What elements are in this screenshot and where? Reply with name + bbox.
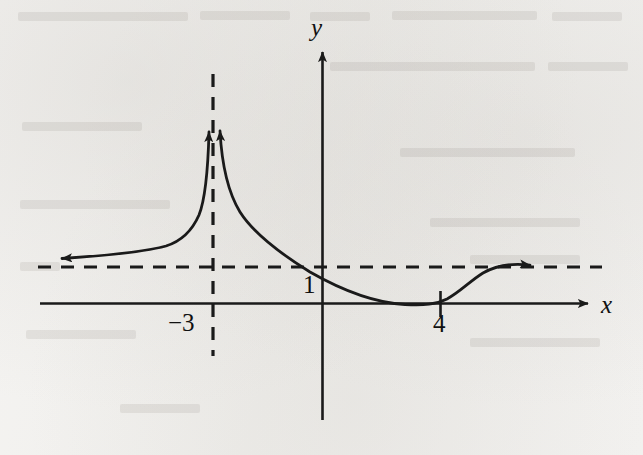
curve-right-branch (220, 131, 530, 305)
x-axis-label: x (601, 292, 612, 317)
x-tick-label-four: 4 (433, 311, 446, 336)
graph-canvas (0, 0, 643, 455)
x-tick-label-negative-three: −3 (168, 310, 195, 335)
curve-left-branch (62, 132, 209, 259)
y-tick-label-one: 1 (303, 272, 316, 297)
figure-page: y x −3 4 1 (0, 0, 643, 455)
y-axis-label: y (311, 15, 322, 40)
